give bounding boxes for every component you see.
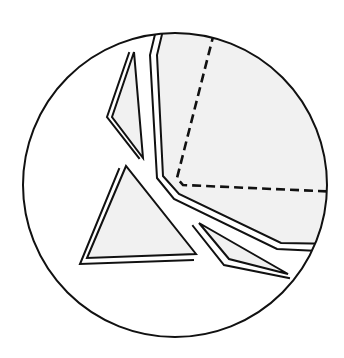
fracture-diagram [0,0,344,358]
main-fragment [150,20,340,251]
upper-sliver-fragment [107,52,143,158]
main-fragment-fill [157,20,340,244]
